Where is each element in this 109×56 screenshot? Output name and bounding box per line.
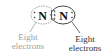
right-leader-line <box>72 22 80 33</box>
left-label-line2: electrons <box>6 42 50 51</box>
right-octet-label: Eight electrons <box>62 35 108 53</box>
left-leader-line <box>30 22 36 32</box>
left-octet-label: Eight electrons <box>6 33 50 51</box>
atom-n-right: N <box>59 9 68 23</box>
right-label-line2: electrons <box>62 44 108 53</box>
atom-n-left: N <box>38 9 47 23</box>
